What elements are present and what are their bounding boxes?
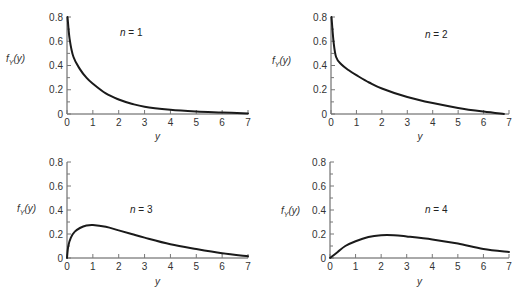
panel-n4: 00.20.40.60.801234567fY(y)yn = 4 — [281, 157, 512, 288]
y-tick-label: 0.2 — [313, 84, 327, 95]
y-tick-label: 0 — [57, 253, 63, 264]
n-annotation: n = 3 — [130, 204, 153, 215]
y-axis-label: fY(y) — [17, 203, 36, 216]
x-tick-label: 6 — [219, 261, 225, 272]
x-tick-label: 4 — [430, 261, 436, 272]
x-tick-label: 3 — [404, 261, 410, 272]
x-tick-label: 5 — [455, 117, 461, 128]
x-axis-label: y — [154, 131, 161, 142]
x-tick-label: 4 — [168, 261, 174, 272]
x-tick-label: 3 — [142, 117, 148, 128]
x-axis-label: y — [417, 131, 424, 142]
y-tick-label: 0 — [57, 109, 63, 120]
x-tick-label: 2 — [116, 117, 122, 128]
y-tick-label: 0.2 — [312, 229, 326, 240]
x-tick-label: 3 — [142, 261, 148, 272]
y-tick-label: 0.6 — [312, 181, 326, 192]
n-annotation: n = 1 — [120, 27, 143, 38]
panel-n2: 00.20.40.60.801234567fY(y)yn = 2 — [272, 12, 512, 143]
x-tick-label: 6 — [219, 117, 225, 128]
x-tick-label: 0 — [327, 261, 333, 272]
y-tick-label: 0.6 — [313, 36, 327, 47]
y-tick-label: 0.6 — [49, 36, 63, 47]
density-curve — [332, 17, 504, 114]
y-tick-label: 0.4 — [49, 60, 63, 71]
panel-n3: 00.20.40.60.801234567fY(y)yn = 3 — [17, 157, 251, 288]
x-tick-label: 6 — [481, 261, 487, 272]
y-tick-label: 0.6 — [49, 181, 63, 192]
x-tick-label: 5 — [194, 261, 200, 272]
y-tick-label: 0.4 — [49, 205, 63, 216]
y-tick-label: 0.8 — [312, 157, 326, 168]
x-tick-label: 5 — [455, 261, 461, 272]
x-tick-label: 0 — [64, 117, 70, 128]
y-tick-label: 0.8 — [49, 12, 63, 23]
x-tick-label: 4 — [168, 117, 174, 128]
x-tick-label: 2 — [378, 261, 384, 272]
x-tick-label: 7 — [245, 261, 251, 272]
y-tick-label: 0.8 — [313, 12, 327, 23]
y-axis-label: fY(y) — [6, 53, 25, 66]
y-tick-label: 0.2 — [49, 84, 63, 95]
x-tick-label: 7 — [506, 261, 512, 272]
x-tick-label: 0 — [64, 261, 70, 272]
x-tick-label: 6 — [481, 117, 487, 128]
x-tick-label: 1 — [353, 261, 359, 272]
panel-n1: 00.20.40.60.801234567fY(y)yn = 1 — [6, 12, 251, 143]
x-tick-label: 1 — [354, 117, 360, 128]
y-tick-label: 0.8 — [49, 157, 63, 168]
x-tick-label: 7 — [506, 117, 512, 128]
x-tick-label: 3 — [405, 117, 411, 128]
figure: 00.20.40.60.801234567fY(y)yn = 1 00.20.4… — [0, 0, 525, 296]
y-axis-label: fY(y) — [281, 205, 300, 218]
y-tick-label: 0 — [321, 109, 327, 120]
density-curve — [330, 235, 509, 258]
x-axis-label: y — [154, 276, 161, 287]
x-tick-label: 2 — [379, 117, 385, 128]
y-axis-label: fY(y) — [272, 55, 291, 68]
density-curve — [67, 225, 248, 258]
x-tick-label: 7 — [245, 117, 251, 128]
y-tick-label: 0.4 — [313, 60, 327, 71]
x-tick-label: 0 — [328, 117, 334, 128]
y-tick-label: 0.4 — [312, 205, 326, 216]
x-tick-label: 4 — [430, 117, 436, 128]
x-axis-label: y — [416, 276, 423, 287]
y-tick-label: 0 — [320, 253, 326, 264]
y-tick-label: 0.2 — [49, 229, 63, 240]
x-tick-label: 1 — [90, 261, 96, 272]
x-tick-label: 5 — [194, 117, 200, 128]
density-curve — [68, 17, 249, 113]
n-annotation: n = 2 — [425, 29, 448, 40]
x-tick-label: 1 — [90, 117, 96, 128]
n-annotation: n = 4 — [425, 204, 448, 215]
x-tick-label: 2 — [116, 261, 122, 272]
